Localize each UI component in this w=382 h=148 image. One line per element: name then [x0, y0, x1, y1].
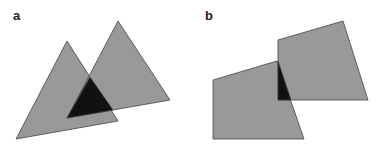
panel-b [213, 21, 368, 139]
quad-right [278, 21, 368, 100]
panel-a [16, 21, 170, 139]
diagram-canvas [0, 0, 382, 148]
